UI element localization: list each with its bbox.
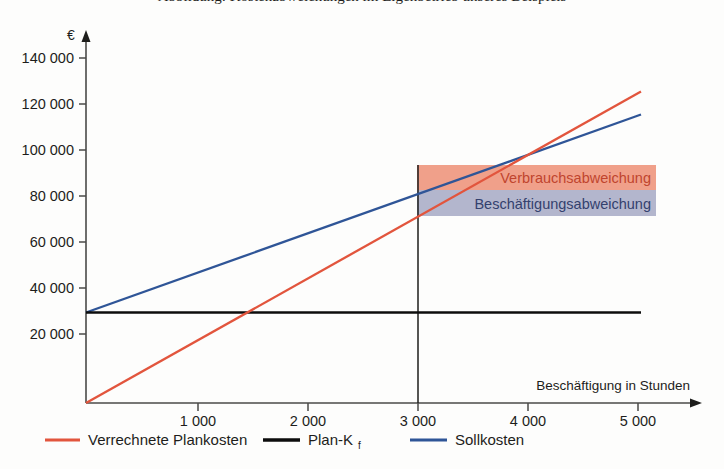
y-tick-label-40000: 40 000 (30, 280, 74, 296)
x-tick-label-2000: 2 000 (290, 413, 326, 429)
x-tick-label-4000: 4 000 (510, 413, 546, 429)
legend-label-verrechnete-plankosten: Verrechnete Plankosten (88, 431, 247, 448)
cost-variance-line-chart: 20 000 40 000 60 000 80 000 100 000 120 … (0, 0, 724, 469)
legend-label-plan-kf-subscript: f (358, 440, 361, 451)
legend-item-sollkosten[interactable]: Sollkosten (410, 431, 524, 448)
x-tick-label-3000: 3 000 (400, 413, 436, 429)
y-tick-label-120000: 120 000 (22, 96, 74, 112)
legend-item-plan-kf[interactable]: Plan-K f (263, 431, 361, 451)
x-axis-ticks (198, 403, 638, 411)
annotation-label-verbrauchsabweichung: Verbrauchsabweichung (500, 170, 651, 186)
chart-legend: Verrechnete Plankosten Plan-K f Sollkost… (45, 431, 524, 451)
series-line-verrechnete-plankosten (86, 92, 641, 404)
x-tick-label-5000: 5 000 (620, 413, 656, 429)
legend-label-plan-kf: Plan-K (308, 431, 353, 448)
x-axis-title: Beschäftigung in Stunden (536, 378, 690, 393)
y-axis-ticks (79, 58, 86, 334)
y-axis-arrow (82, 30, 91, 42)
x-tick-label-1000: 1 000 (180, 413, 216, 429)
y-tick-label-140000: 140 000 (22, 50, 74, 66)
legend-item-verrechnete-plankosten[interactable]: Verrechnete Plankosten (45, 431, 247, 448)
y-tick-label-80000: 80 000 (30, 188, 74, 204)
y-tick-label-60000: 60 000 (30, 234, 74, 250)
legend-label-sollkosten: Sollkosten (455, 431, 524, 448)
annotation-label-beschaeftigungsabweichung: Beschäftigungsabweichung (474, 196, 651, 212)
y-tick-label-100000: 100 000 (22, 142, 74, 158)
y-axis-unit-label: € (67, 27, 75, 43)
chart-figure: Abbildung: Kostenabweichungen im Eigenbe… (0, 0, 724, 469)
x-axis-arrow (690, 399, 702, 408)
y-tick-label-20000: 20 000 (30, 326, 74, 342)
